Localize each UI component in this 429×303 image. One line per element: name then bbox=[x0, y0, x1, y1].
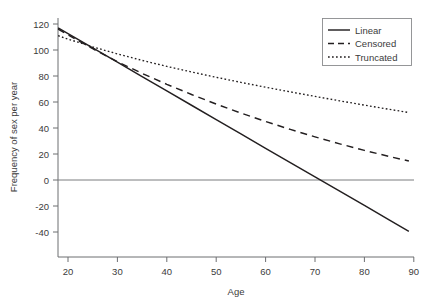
x-tick-label: 30 bbox=[112, 266, 123, 277]
legend-label-censored: Censored bbox=[355, 38, 396, 49]
chart-legend[interactable]: Linear Censored Truncated bbox=[323, 19, 412, 66]
y-tick-label: -40 bbox=[35, 227, 49, 238]
x-axis-ticks: 20 30 40 50 60 70 80 90 bbox=[63, 257, 419, 277]
y-tick-label: 120 bbox=[33, 19, 49, 30]
y-tick-label: -20 bbox=[35, 201, 49, 212]
x-tick-label: 40 bbox=[162, 266, 173, 277]
line-chart-svg: 120 100 80 60 40 20 0 -20 -40 20 30 40 bbox=[0, 0, 429, 303]
y-tick-label: 100 bbox=[33, 45, 49, 56]
x-tick-label: 60 bbox=[260, 266, 271, 277]
x-tick-label: 50 bbox=[211, 266, 222, 277]
x-tick-label: 70 bbox=[310, 266, 321, 277]
x-tick-label: 20 bbox=[63, 266, 74, 277]
y-tick-label: 20 bbox=[38, 149, 49, 160]
y-tick-label: 80 bbox=[38, 71, 49, 82]
chart-figure: 120 100 80 60 40 20 0 -20 -40 20 30 40 bbox=[0, 0, 429, 303]
y-tick-label: 0 bbox=[44, 175, 49, 186]
y-axis-ticks: 120 100 80 60 40 20 0 -20 -40 bbox=[33, 19, 58, 238]
y-axis-title: Frequency of sex per year bbox=[8, 82, 19, 192]
x-tick-label: 80 bbox=[359, 266, 370, 277]
legend-label-linear: Linear bbox=[355, 25, 381, 36]
y-tick-label: 60 bbox=[38, 97, 49, 108]
y-tick-label: 40 bbox=[38, 123, 49, 134]
x-axis-title: Age bbox=[228, 286, 245, 297]
x-tick-label: 90 bbox=[409, 266, 420, 277]
legend-label-truncated: Truncated bbox=[355, 52, 397, 63]
